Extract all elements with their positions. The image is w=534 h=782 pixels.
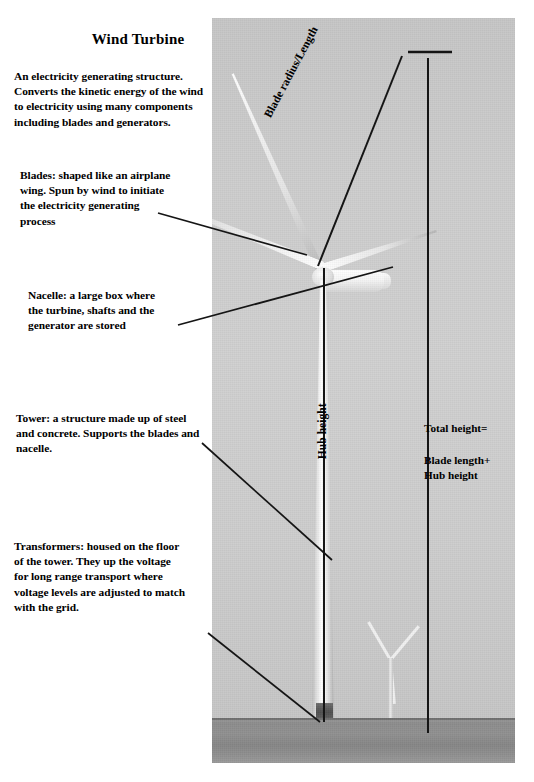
turbine-blade-left (212, 188, 324, 270)
distant-turbine-blade (389, 625, 420, 661)
transformer-box (316, 703, 333, 718)
label-total-height-formula: Blade length+ Hub height (424, 453, 490, 482)
ground-field (212, 718, 515, 763)
wind-turbine-photo (212, 18, 515, 763)
label-total-height: Total height= (424, 421, 487, 436)
distant-turbine-blade (367, 621, 392, 661)
turbine-blade-right (321, 227, 438, 273)
horizon-line (212, 718, 515, 720)
page-title: Wind Turbine (58, 31, 218, 48)
label-hub-height: Hub height (316, 403, 331, 459)
annotation-transformers: Transformers: housed on the floor of the… (14, 539, 226, 615)
turbine-tower (312, 280, 334, 728)
slide-canvas: Wind Turbine An electricity generating s… (0, 0, 534, 782)
distant-turbine-tower (388, 658, 393, 720)
intro-paragraph: An electricity generating structure. Con… (14, 69, 224, 130)
annotation-nacelle: Nacelle: a large box where the turbine, … (28, 288, 223, 334)
annotation-blades: Blades: shaped like an airplane wing. Sp… (20, 168, 220, 229)
annotation-tower: Tower: a structure made up of steel and … (16, 411, 224, 457)
